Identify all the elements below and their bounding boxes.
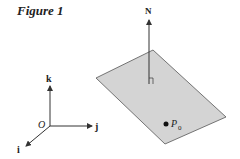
plane — [96, 50, 226, 144]
k-label: k — [46, 73, 52, 84]
point-dot — [164, 122, 169, 127]
diagram-canvas: k j i O N P 0 — [0, 0, 240, 159]
coordinate-axes: k j i O — [17, 73, 98, 155]
normal-label: N — [145, 6, 152, 16]
point-subscript: 0 — [178, 124, 182, 132]
origin-label: O — [38, 119, 45, 130]
point-label: P — [170, 118, 177, 129]
j-label: j — [94, 121, 98, 132]
i-label: i — [17, 144, 20, 155]
